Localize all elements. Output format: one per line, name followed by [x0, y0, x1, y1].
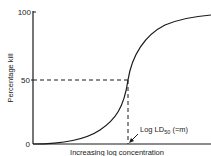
y-tick-label-50: 50	[21, 76, 30, 85]
x-axis-title: Increasing log concentration	[70, 148, 164, 156]
dose-response-chart: 100 50 0 Percentage kill Increasing log …	[0, 0, 211, 156]
y-axis-title: Percentage kill	[6, 53, 15, 103]
y-tick-label-100: 100	[18, 8, 32, 17]
ld50-annotation-main: Log LD	[140, 125, 165, 134]
y-tick-label-0: 0	[26, 140, 31, 149]
ld50-annotation-suffix: (=m)	[170, 125, 188, 134]
ld50-annotation: Log LD50 (=m)	[140, 125, 189, 135]
